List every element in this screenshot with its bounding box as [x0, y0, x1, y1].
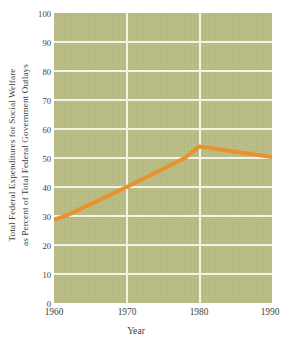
- y-tick-20: 20: [29, 242, 51, 251]
- y-tick-90: 90: [29, 39, 51, 48]
- x-tick-1960: 1960: [27, 306, 81, 318]
- plot-area: [54, 13, 272, 303]
- y-tick-100: 100: [29, 10, 51, 19]
- x-tick-1980: 1980: [172, 306, 226, 318]
- x-axis-tick-labels: 1960 1970 1980 1990: [0, 306, 286, 322]
- y-tick-10: 10: [29, 271, 51, 280]
- y-tick-70: 70: [29, 97, 51, 106]
- y-tick-80: 80: [29, 68, 51, 77]
- series-line-social-welfare: [54, 13, 272, 303]
- x-tick-1970: 1970: [100, 306, 154, 318]
- y-tick-50: 50: [29, 155, 51, 164]
- y-axis-title-line-1: Total Federal Expenditures for Social We…: [6, 64, 19, 246]
- y-axis-tick-labels: 100 90 80 70 60 50 40 30 20 10 0: [26, 0, 51, 346]
- y-tick-30: 30: [29, 213, 51, 222]
- x-tick-1990: 1990: [243, 306, 286, 318]
- y-tick-60: 60: [29, 126, 51, 135]
- y-tick-40: 40: [29, 184, 51, 193]
- chart-figure: Total Federal Expenditures for Social We…: [0, 0, 286, 346]
- x-axis-title: Year: [0, 325, 272, 337]
